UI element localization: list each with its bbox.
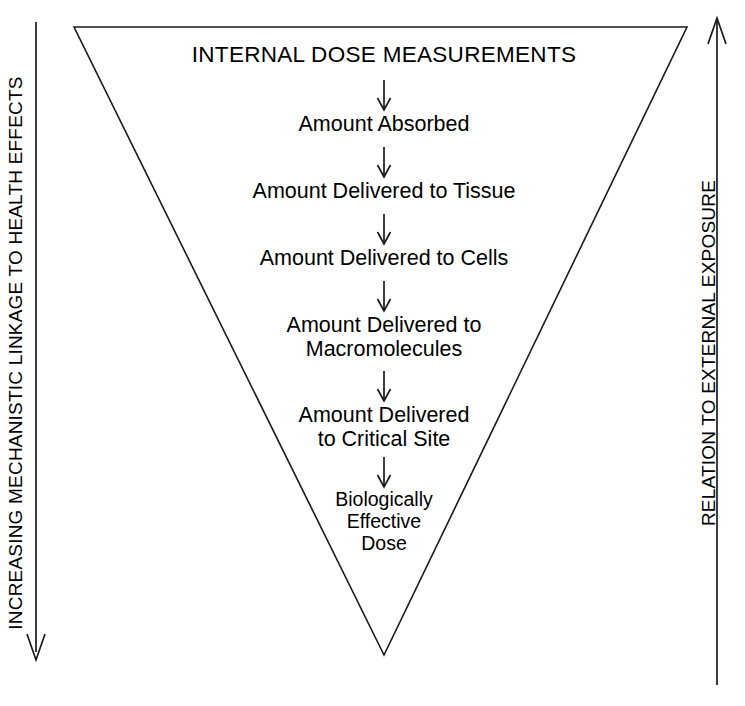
arrow-down-icon	[368, 279, 400, 313]
flow-step-3: Amount Delivered to Cells	[84, 246, 684, 270]
flow-step-4: Amount Delivered to Macromolecules	[84, 313, 684, 361]
dose-triangle-figure: INTERNAL DOSE MEASUREMENTS Amount Absorb…	[0, 0, 745, 706]
left-axis-label: INCREASING MECHANISTIC LINKAGE TO HEALTH…	[5, 76, 27, 629]
flow-step-6: Biologically Effective Dose	[84, 489, 684, 554]
arrow-down-icon	[368, 212, 400, 246]
flow-step-1: Amount Absorbed	[84, 112, 684, 136]
arrow-down-icon	[368, 369, 400, 403]
arrow-down-icon	[368, 455, 400, 489]
left-axis: INCREASING MECHANISTIC LINKAGE TO HEALTH…	[2, 0, 50, 706]
dose-flow-column: INTERNAL DOSE MEASUREMENTS Amount Absorb…	[0, 0, 745, 706]
flow-step-2: Amount Delivered to Tissue	[84, 179, 684, 203]
flow-step-5: Amount Delivered to Critical Site	[84, 403, 684, 451]
arrow-down-icon	[368, 78, 400, 112]
right-axis: RELATION TO EXTERNAL EXPOSURE	[693, 0, 741, 706]
arrow-down-icon	[368, 145, 400, 179]
right-axis-label: RELATION TO EXTERNAL EXPOSURE	[698, 180, 720, 526]
flow-heading: INTERNAL DOSE MEASUREMENTS	[84, 42, 684, 67]
